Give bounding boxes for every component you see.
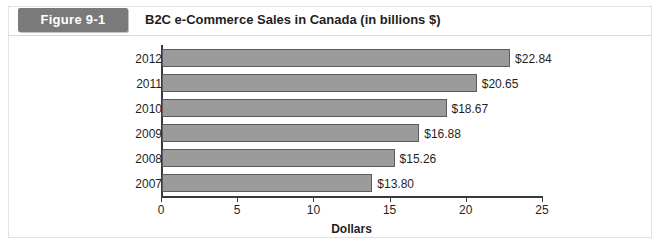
bar-row: 2008$15.26 xyxy=(0,147,660,172)
bar-row: 2007$13.80 xyxy=(0,172,660,197)
x-axis-tick-label: 15 xyxy=(370,203,410,217)
x-axis-tick xyxy=(313,196,314,202)
bar-value-label: $13.80 xyxy=(377,175,414,193)
bar-row: 2010$18.67 xyxy=(0,97,660,122)
bar-category-label: 2011 xyxy=(102,75,162,93)
bar-value-label: $22.84 xyxy=(515,50,552,68)
bar-row: 2009$16.88 xyxy=(0,122,660,147)
bar-2012 xyxy=(162,49,510,67)
bar-category-label: 2007 xyxy=(102,175,162,193)
x-axis-tick xyxy=(161,196,162,202)
x-axis-tick xyxy=(390,196,391,202)
bar-value-label: $20.65 xyxy=(482,75,519,93)
bar-category-label: 2012 xyxy=(102,50,162,68)
x-axis-tick xyxy=(466,196,467,202)
x-axis-title: Dollars xyxy=(161,222,542,236)
bar-row: 2011$20.65 xyxy=(0,72,660,97)
bar-category-label: 2009 xyxy=(102,125,162,143)
chart-plot-area: 2012$22.842011$20.652010$18.672009$16.88… xyxy=(0,0,660,246)
bar-2011 xyxy=(162,74,477,92)
x-axis-tick xyxy=(542,196,543,202)
bar-row: 2012$22.84 xyxy=(0,47,660,72)
figure-container: Figure 9-1 B2C e-Commerce Sales in Canad… xyxy=(0,0,660,246)
bar-value-label: $18.67 xyxy=(452,100,489,118)
x-axis-tick xyxy=(237,196,238,202)
bar-2008 xyxy=(162,149,395,167)
x-axis-tick-label: 20 xyxy=(446,203,486,217)
x-axis-tick-label: 0 xyxy=(141,203,181,217)
x-axis-tick-label: 25 xyxy=(522,203,562,217)
bar-2007 xyxy=(162,174,372,192)
x-axis-tick-label: 5 xyxy=(217,203,257,217)
bar-value-label: $16.88 xyxy=(424,125,461,143)
bar-category-label: 2010 xyxy=(102,100,162,118)
bar-2009 xyxy=(162,124,419,142)
bar-value-label: $15.26 xyxy=(400,150,437,168)
bar-category-label: 2008 xyxy=(102,150,162,168)
x-axis-tick-label: 10 xyxy=(293,203,333,217)
bar-2010 xyxy=(162,99,447,117)
